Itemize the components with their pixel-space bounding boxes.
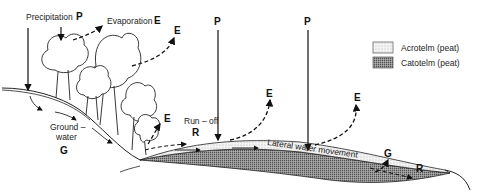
evaporation-symbol: E: [154, 15, 161, 26]
groundwater-label: Ground –: [50, 122, 86, 132]
groundwater-symbol: G: [384, 148, 392, 159]
groundwater-symbol: G: [60, 145, 68, 156]
acrotelm-swatch: [373, 42, 393, 53]
catotelm-swatch: [373, 57, 393, 68]
precipitation-symbol: P: [76, 11, 83, 22]
groundwater-label: water: [55, 132, 77, 142]
precipitation-label: Precipitation: [26, 12, 73, 22]
peatland-hydrology-diagram: Precipitation P Evaporation E E P P E E …: [0, 0, 477, 193]
runoff-symbol: R: [416, 163, 424, 174]
legend-acrotelm-label: Acrotelm (peat): [401, 43, 459, 53]
evaporation-symbol: E: [164, 113, 171, 124]
precipitation-symbol: P: [214, 16, 221, 27]
precipitation-symbol: P: [304, 16, 311, 27]
runoff-label: Run – off: [184, 116, 219, 126]
legend: Acrotelm (peat) Catotelm (peat): [373, 42, 460, 68]
legend-catotelm-label: Catotelm (peat): [401, 58, 460, 68]
evaporation-symbol: E: [266, 88, 273, 99]
evaporation-label: Evaporation: [107, 16, 153, 26]
evaporation-symbol: E: [354, 92, 361, 103]
evaporation-symbol: E: [174, 25, 181, 36]
runoff-symbol: R: [192, 127, 200, 138]
